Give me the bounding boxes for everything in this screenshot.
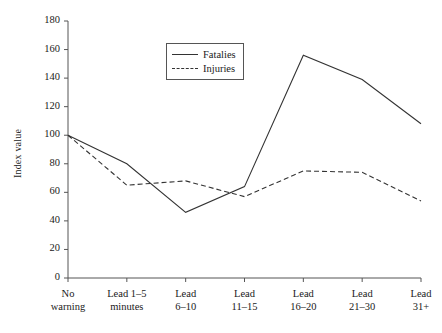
chart-legend: Fatalies Injuries (166, 43, 244, 80)
line-chart: Index value 020406080100120140160180 No … (0, 0, 442, 333)
y-axis-tick-marks (64, 21, 68, 278)
legend-swatch-dashed-icon (172, 63, 198, 73)
series-line-fatalies (68, 55, 421, 212)
x-axis-tick-marks (68, 278, 421, 282)
legend-swatch-solid-icon (172, 49, 198, 59)
legend-item-injuries: Injuries (172, 61, 236, 75)
legend-label-injuries: Injuries (203, 63, 235, 74)
data-series-group (68, 55, 421, 212)
series-line-injuries (68, 135, 421, 201)
axes (68, 21, 421, 278)
legend-label-fatalies: Fatalies (203, 49, 236, 60)
legend-item-fatalies: Fatalies (172, 47, 236, 61)
